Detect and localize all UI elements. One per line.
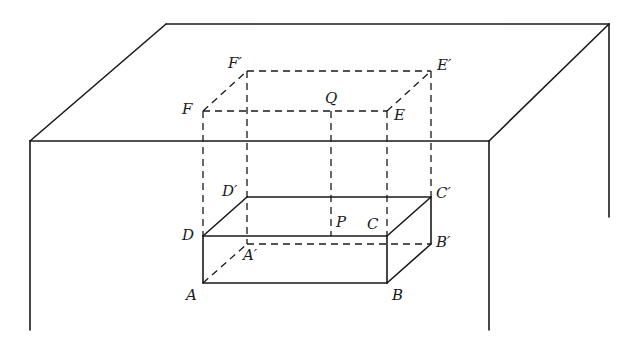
label-D-prime: D′ [222, 184, 237, 199]
table-left-edge [30, 24, 166, 141]
label-D: D [182, 228, 194, 243]
projected-box [203, 71, 431, 244]
label-F: F [182, 102, 192, 117]
dashed-edge-FF-prime [203, 71, 247, 111]
box [203, 197, 431, 283]
label-B-prime: B′ [436, 235, 450, 250]
table [30, 24, 609, 330]
label-E-prime: E′ [437, 58, 451, 73]
label-Q: Q [325, 91, 337, 106]
label-A: A [186, 288, 197, 303]
label-E: E [394, 108, 405, 123]
label-C-prime: C′ [436, 186, 451, 201]
hidden-edge-AA-prime [203, 244, 247, 283]
box-on-table-diagram: F F′ E E′ Q D′ D A′ A P C C′ B′ B [0, 0, 635, 340]
label-P: P [336, 215, 346, 230]
edge-CC-prime [387, 197, 431, 236]
edge-BB-prime [387, 244, 431, 283]
label-B: B [392, 288, 403, 303]
label-A-prime: A′ [243, 248, 257, 263]
edge-DD-prime [203, 197, 247, 236]
label-C: C [367, 217, 378, 232]
label-F-prime: F′ [228, 56, 242, 71]
table-right-edge [489, 24, 609, 141]
dashed-edge-EE-prime [387, 71, 431, 111]
diagram-lines [0, 0, 635, 340]
